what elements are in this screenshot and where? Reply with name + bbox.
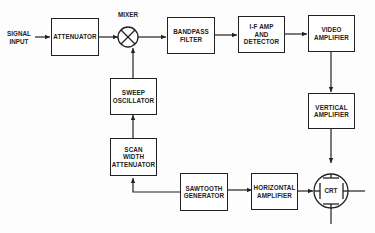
video-amplifier-block: VIDEO AMPLIFIER — [308, 15, 355, 52]
block-diagram: SIGNAL INPUT MIXER CRT ATTENUATOR BANDPA… — [0, 0, 375, 233]
attenuator-block: ATTENUATOR — [51, 18, 99, 56]
crt-label: CRT — [318, 187, 344, 195]
scan-width-attenuator-block: SCAN WIDTH ATTENUATOR — [110, 138, 157, 176]
mixer-symbol — [118, 27, 138, 47]
signal-input-label: SIGNAL INPUT — [2, 30, 36, 45]
mixer-label: MIXER — [110, 11, 146, 19]
vertical-amplifier-block: VERTICAL AMPLIFIER — [308, 93, 355, 129]
bandpass-filter-block: BANDPASS FILTER — [167, 17, 215, 54]
sweep-oscillator-block: SWEEP OSCILLATOR — [110, 78, 157, 115]
horizontal-amplifier-block: HORIZONTAL AMPLIFIER — [251, 173, 298, 210]
if-amp-detector-block: I-F AMP AND DETECTOR — [238, 16, 285, 53]
sawtooth-generator-block: SAWTOOTH GENERATOR — [180, 173, 228, 211]
